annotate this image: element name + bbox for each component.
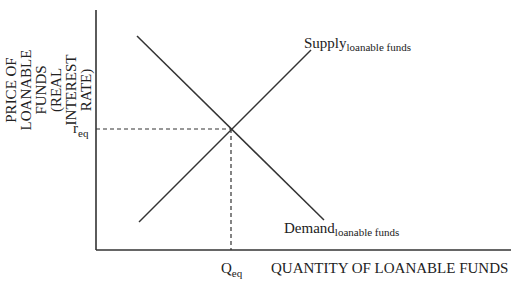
q-eq-label: Qeq	[221, 260, 243, 279]
r-eq-label: req	[73, 120, 89, 139]
x-axis-label: QUANTITY OF LOANABLE FUNDS	[271, 260, 508, 276]
y-axis-label: PRICE OF LOANABLE FUNDS (REAL INTEREST R…	[3, 50, 95, 131]
svg-text:LOANABLE: LOANABLE	[18, 50, 34, 131]
svg-text:FUNDS: FUNDS	[33, 65, 49, 114]
svg-text:INTEREST: INTEREST	[63, 55, 79, 126]
svg-text:RATE): RATE)	[78, 69, 95, 112]
svg-text:PRICE OF: PRICE OF	[3, 57, 19, 122]
supply-label: Supplyloanable funds	[304, 35, 411, 53]
loanable-funds-diagram: PRICE OF LOANABLE FUNDS (REAL INTEREST R…	[0, 0, 522, 288]
supply-curve	[139, 50, 311, 222]
demand-label: Demandloanable funds	[284, 220, 399, 238]
diagram-canvas: PRICE OF LOANABLE FUNDS (REAL INTEREST R…	[0, 0, 522, 288]
